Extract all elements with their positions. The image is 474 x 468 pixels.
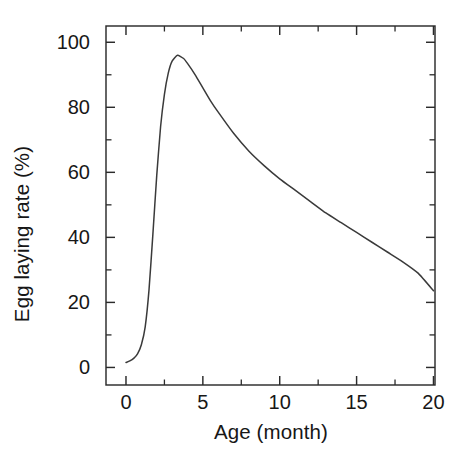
chart-figure: Egg laying rate (%) Age (month) 0 20 40 … xyxy=(0,0,474,468)
plot-area xyxy=(0,0,474,468)
data-series-line xyxy=(126,55,433,362)
